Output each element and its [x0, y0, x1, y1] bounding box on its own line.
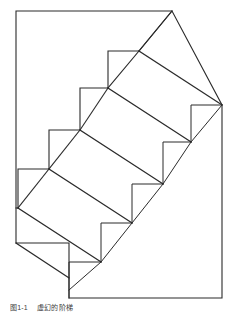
staircase-line-art — [16, 11, 222, 298]
figure-caption-label: 图1-1 — [10, 304, 28, 311]
staircase-illusion-figure — [0, 0, 233, 315]
figure-page: 图1-1虚幻的阶梯 — [0, 0, 233, 315]
figure-caption: 图1-1虚幻的阶梯 — [10, 303, 190, 315]
figure-caption-title: 虚幻的阶梯 — [37, 304, 73, 311]
